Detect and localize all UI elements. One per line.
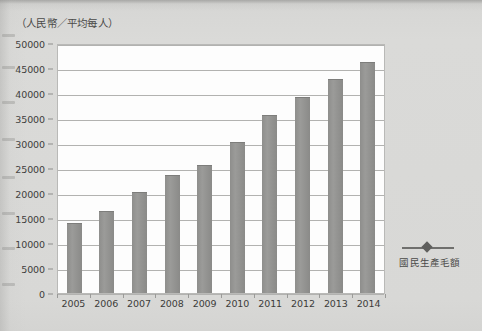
bar [295, 97, 310, 294]
x-axis-tick-label: 2013 [320, 298, 352, 309]
x-axis-tick-label: 2014 [353, 298, 385, 309]
y-axis-tick-label: 0 [39, 289, 45, 300]
y-axis-tick-label: 15000 [15, 214, 45, 225]
y-axis-tick [48, 169, 53, 170]
x-axis-tick-label: 2012 [287, 298, 319, 309]
y-axis-tick-label: 10000 [15, 239, 45, 250]
x-axis-tick-label: 2005 [57, 298, 89, 309]
y-axis-tick [48, 294, 53, 295]
x-axis-tick-label: 2007 [123, 298, 155, 309]
y-axis-tick-label: 50000 [15, 39, 45, 50]
y-axis-tick [48, 44, 53, 45]
y-axis-tick [48, 244, 53, 245]
bar-series-gnp [58, 45, 384, 293]
x-axis-tick-label: 2008 [156, 298, 188, 309]
y-axis-tick-label: 45000 [15, 64, 45, 75]
bar [197, 165, 212, 293]
y-axis-tick [48, 144, 53, 145]
x-axis: 2005200620072008200920102011201220132014 [57, 298, 385, 309]
legend-label: 國民生產毛額 [388, 255, 472, 269]
x-axis-tick-label: 2010 [221, 298, 253, 309]
y-axis-tick [48, 69, 53, 70]
y-axis-tick [48, 119, 53, 120]
legend: 國民生產毛額 [388, 243, 472, 269]
bar [67, 223, 82, 294]
y-axis-tick-label: 35000 [15, 114, 45, 125]
y-axis-unit-caption: （人民幣／平均每人） [16, 15, 118, 30]
y-axis-tick-label: 30000 [15, 139, 45, 150]
x-axis-tick [385, 294, 386, 298]
x-axis-tick-label: 2009 [189, 298, 221, 309]
legend-diamond-marker-icon [421, 241, 432, 252]
bar [132, 192, 147, 293]
bar [165, 175, 180, 294]
bar [262, 115, 277, 294]
y-axis-tick-label: 20000 [15, 189, 45, 200]
y-axis-tick [48, 194, 53, 195]
legend-marker-group [388, 243, 472, 253]
y-axis-tick-label: 40000 [15, 89, 45, 100]
bar [230, 142, 245, 293]
y-axis-tick-label: 25000 [15, 164, 45, 175]
y-axis-tick [48, 269, 53, 270]
bar [99, 211, 114, 294]
y-axis-tick-label: 5000 [21, 264, 45, 275]
y-axis: 0500010000150002000025000300003500040000… [0, 44, 53, 294]
y-axis-tick [48, 94, 53, 95]
plot-area [57, 44, 385, 294]
scanned-page: （人民幣／平均每人） 05000100001500020000250003000… [0, 0, 482, 331]
bar [328, 79, 343, 294]
y-axis-tick [48, 219, 53, 220]
x-axis-tick-label: 2006 [90, 298, 122, 309]
x-axis-tick-label: 2011 [254, 298, 286, 309]
page-bleed-mark [2, 34, 15, 37]
bar [360, 62, 375, 293]
